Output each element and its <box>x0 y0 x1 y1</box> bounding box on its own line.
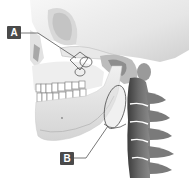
label-b: B <box>60 152 74 165</box>
cervical-spine <box>127 78 174 179</box>
anatomy-illustration <box>0 0 189 182</box>
label-a: A <box>7 26 21 39</box>
spinous-processes <box>146 92 174 174</box>
